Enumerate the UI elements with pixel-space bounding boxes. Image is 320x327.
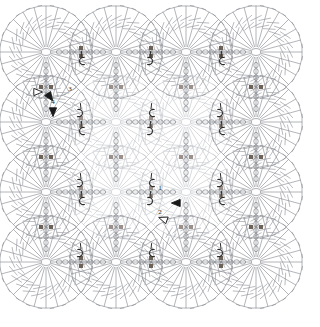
hook-tail	[220, 104, 221, 109]
hook-tail	[220, 174, 221, 179]
chain-marker-dot-21	[149, 264, 153, 268]
chain-marker-dot-37	[189, 85, 193, 89]
chain-marker-dot-30	[109, 85, 113, 89]
label-4: 4	[51, 98, 55, 106]
hook-tail	[81, 122, 82, 127]
hook-tail	[221, 52, 222, 57]
hook-tail	[150, 192, 151, 197]
hook-tail	[80, 244, 81, 249]
chain-marker-dot-35	[119, 225, 123, 229]
chain-marker-dot-23	[219, 264, 223, 268]
chain-marker-dot-32	[109, 155, 113, 159]
chain-marker-dot-26	[39, 155, 43, 159]
hook-tail	[81, 192, 82, 197]
chain-marker-dot-33	[119, 155, 123, 159]
crochet-chart-root: 3412	[0, 0, 320, 327]
hook-tail	[221, 192, 222, 197]
chain-marker-dot-39	[189, 155, 193, 159]
chain-marker-dot-2	[149, 46, 153, 50]
label-1: 1	[158, 184, 162, 192]
chain-marker-dot-43	[259, 85, 263, 89]
label-3: 3	[68, 85, 72, 93]
hook-tail	[151, 174, 152, 179]
chain-marker-dot-25	[49, 85, 53, 89]
chain-marker-dot-27	[49, 155, 53, 159]
chain-marker-dot-46	[249, 225, 253, 229]
chain-marker-dot-44	[249, 155, 253, 159]
hook-tail	[151, 244, 152, 249]
hook-tail	[150, 122, 151, 127]
chain-marker-dot-42	[249, 85, 253, 89]
crochet-pattern-svg: 3412	[0, 0, 320, 327]
chain-marker-dot-19	[79, 264, 83, 268]
chain-marker-dot-31	[119, 85, 123, 89]
chain-marker-dot-4	[219, 46, 223, 50]
chain-marker-dot-38	[179, 155, 183, 159]
chain-marker-dot-34	[109, 225, 113, 229]
label-2: 2	[158, 208, 162, 216]
hook-tail	[81, 52, 82, 57]
hook-tail	[150, 52, 151, 57]
chain-marker-dot-47	[259, 225, 263, 229]
chain-marker-dot-41	[189, 225, 193, 229]
hook-tail	[80, 104, 81, 109]
chain-marker-dot-29	[49, 225, 53, 229]
chain-marker-dot-36	[179, 85, 183, 89]
chain-marker-dot-0	[79, 46, 83, 50]
hook-tail	[221, 122, 222, 127]
hook-tail	[220, 244, 221, 249]
chain-marker-dot-40	[179, 225, 183, 229]
hook-tail	[151, 104, 152, 109]
chain-marker-dot-28	[39, 225, 43, 229]
chain-marker-dot-45	[259, 155, 263, 159]
chain-marker-dot-24	[39, 85, 43, 89]
hook-tail	[80, 174, 81, 179]
